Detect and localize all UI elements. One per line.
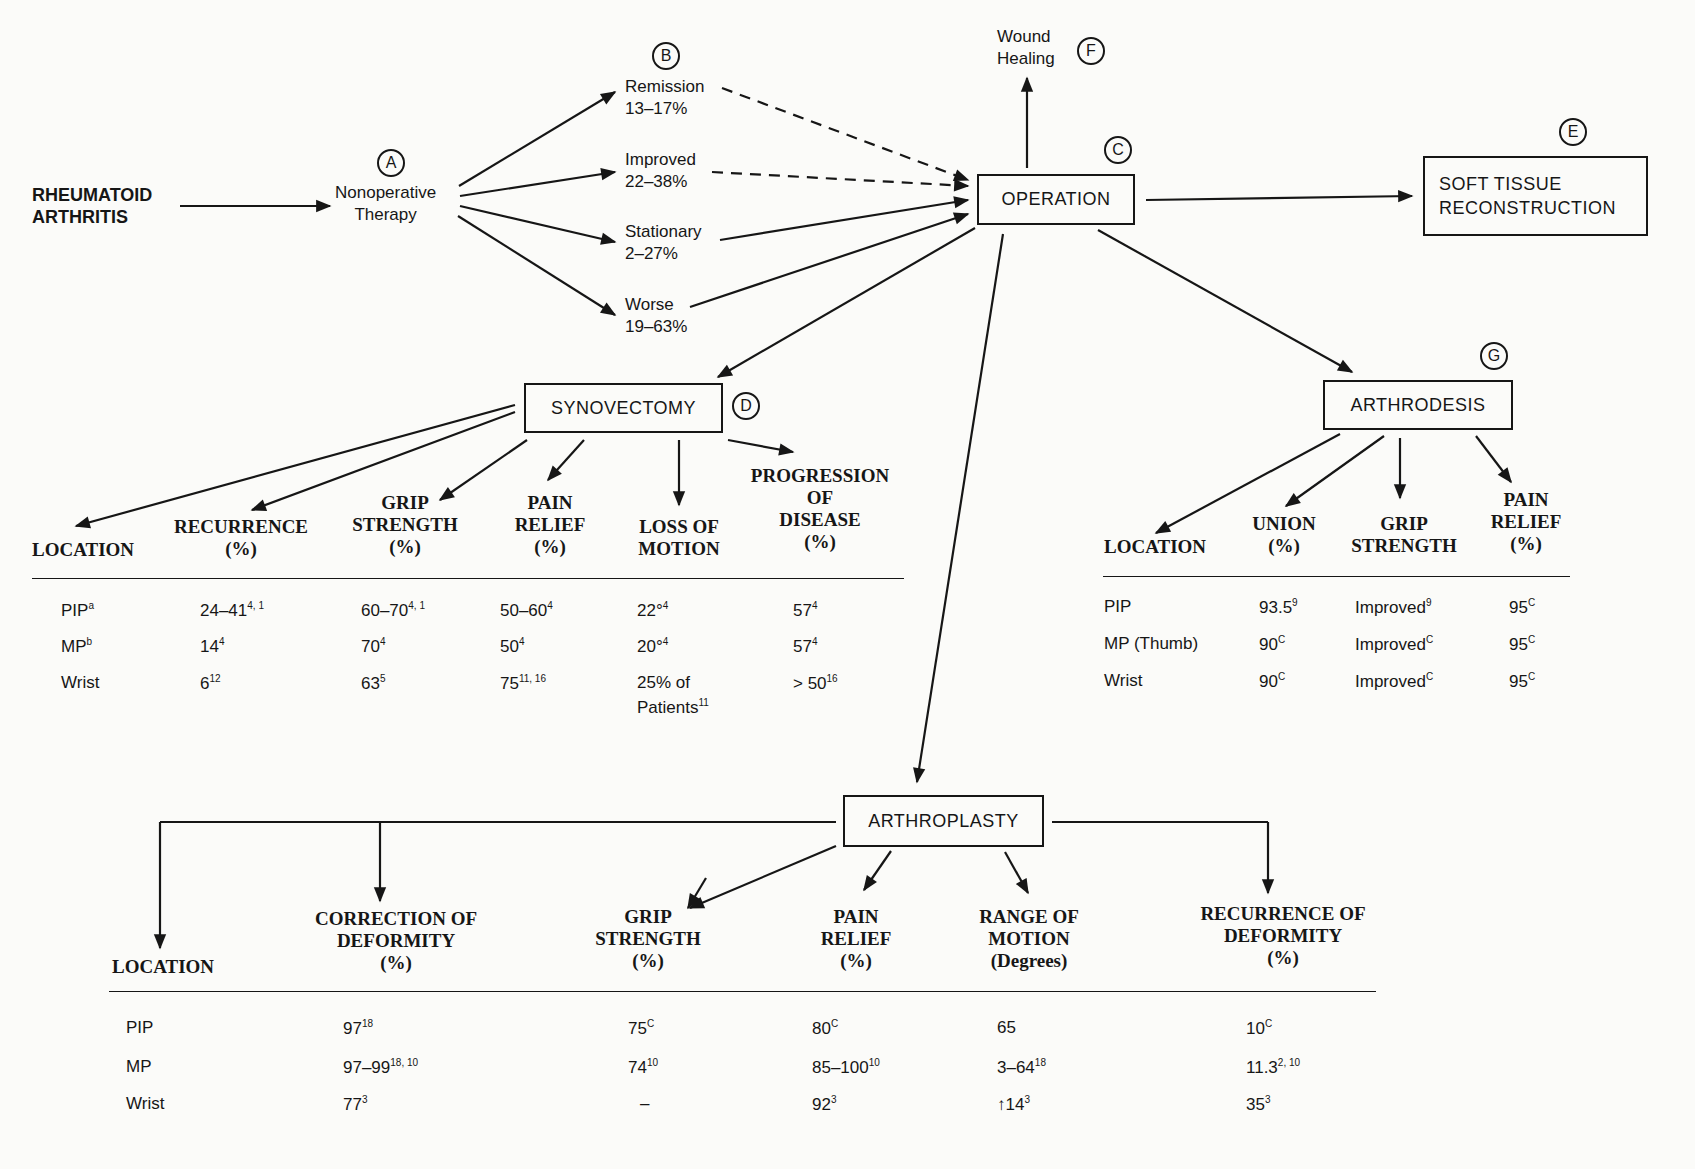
outcome-value: 19–63% <box>625 316 687 338</box>
arthrodesis-box: ARTHRODESIS <box>1323 380 1513 430</box>
header-line: PAIN <box>821 906 892 928</box>
table-cell: 3–6418 <box>997 1057 1046 1078</box>
table-cell: ImprovedC <box>1355 671 1433 692</box>
header-line: MOTION <box>638 538 719 560</box>
header-line: CORRECTION OF <box>315 908 477 930</box>
synovectomy-header-grip-strength: GRIP STRENGTH (%) <box>352 492 458 558</box>
header-line: RELIEF <box>515 514 586 536</box>
table-cell: 773 <box>343 1094 367 1115</box>
table-cell-location: Wrist <box>126 1094 164 1114</box>
arthroplasty-header-range-of-motion: RANGE OF MOTION (Degrees) <box>979 906 1079 972</box>
header-line: DEFORMITY <box>315 930 477 952</box>
synovectomy-header-recurrence: RECURRENCE (%) <box>174 516 308 560</box>
outcome-remission: Remission 13–17% <box>625 76 704 120</box>
root-condition-label: RHEUMATOID ARTHRITIS <box>32 184 152 228</box>
table-cell: Improved9 <box>1355 597 1431 618</box>
header-line: (%) <box>595 950 701 972</box>
soft-tissue-line-1: SOFT TISSUE <box>1439 172 1616 196</box>
table-cell: 75C <box>628 1018 654 1039</box>
header-line: STRENGTH <box>595 928 701 950</box>
arthroplasty-header-correction: CORRECTION OF DEFORMITY (%) <box>315 908 477 974</box>
table-cell-location: Wrist <box>61 673 99 693</box>
table-cell-location: MPb <box>61 636 92 657</box>
table-cell: 90C <box>1259 671 1285 692</box>
table-cell: 24–414, 1 <box>200 600 264 621</box>
header-line: LOSS OF <box>638 516 719 538</box>
header-line: (Degrees) <box>979 950 1079 972</box>
soft-tissue-line-2: RECONSTRUCTION <box>1439 196 1616 220</box>
outcome-label: Stationary <box>625 221 702 243</box>
nonoperative-line-2: Therapy <box>335 204 436 226</box>
soft-tissue-reconstruction-box: SOFT TISSUE RECONSTRUCTION <box>1423 156 1648 236</box>
header-line: (%) <box>821 950 892 972</box>
header-line: (%) <box>352 536 458 558</box>
arthroplasty-header-recurrence: RECURRENCE OF DEFORMITY (%) <box>1200 903 1365 969</box>
table-cell: 353 <box>1246 1094 1270 1115</box>
table-cell: ImprovedC <box>1355 634 1433 655</box>
table-cell: 7410 <box>628 1057 658 1078</box>
arthroplasty-header-pain-relief: PAIN RELIEF (%) <box>821 906 892 972</box>
header-line: (%) <box>315 952 477 974</box>
table-cell: 60–704, 1 <box>361 600 425 621</box>
synovectomy-box: SYNOVECTOMY <box>524 383 723 433</box>
table-cell: 11.32, 10 <box>1246 1057 1300 1078</box>
table-cell: 50–604 <box>500 600 553 621</box>
header-line: GRIP <box>1351 513 1457 535</box>
table-cell: Patients11 <box>637 697 709 718</box>
table-cell: 923 <box>812 1094 836 1115</box>
marker-f-icon: F <box>1077 37 1105 65</box>
arthrodesis-header-pain-relief: PAIN RELIEF (%) <box>1491 489 1562 555</box>
table-cell: 95C <box>1509 671 1535 692</box>
table-cell: > 5016 <box>793 673 838 694</box>
header-line: (%) <box>1491 533 1562 555</box>
header-line: DEFORMITY <box>1200 925 1365 947</box>
synovectomy-header-location: LOCATION <box>32 539 134 561</box>
marker-c-icon: C <box>1104 136 1132 164</box>
table-cell: ↑143 <box>997 1094 1030 1115</box>
marker-e-icon: E <box>1559 118 1587 146</box>
outcome-value: 13–17% <box>625 98 704 120</box>
synovectomy-header-progression: PROGRESSION OF DISEASE (%) <box>751 465 889 553</box>
table-cell: 93.59 <box>1259 597 1298 618</box>
marker-g-icon: G <box>1480 342 1508 370</box>
marker-a-icon: A <box>377 149 405 177</box>
table-cell: 95C <box>1509 634 1535 655</box>
outcome-value: 22–38% <box>625 171 696 193</box>
header-line: DISEASE <box>751 509 889 531</box>
table-cell: 574 <box>793 600 817 621</box>
table-cell: 90C <box>1259 634 1285 655</box>
table-cell: 635 <box>361 673 385 694</box>
table-cell-location: MP (Thumb) <box>1104 634 1198 654</box>
table-cell: 95C <box>1509 597 1535 618</box>
header-line: PAIN <box>1491 489 1562 511</box>
table-cell-location: PIP <box>126 1018 153 1038</box>
table-cell: 80C <box>812 1018 838 1039</box>
synovectomy-header-loss-of-motion: LOSS OF MOTION <box>638 516 719 560</box>
table-cell: 65 <box>997 1018 1016 1038</box>
table-cell-location: MP <box>126 1057 152 1077</box>
header-line: RECURRENCE <box>174 516 308 538</box>
table-cell: 25% of <box>637 673 690 693</box>
outcome-stationary: Stationary 2–27% <box>625 221 702 265</box>
header-line: STRENGTH <box>352 514 458 536</box>
arthrodesis-header-grip-strength: GRIP STRENGTH <box>1351 513 1457 557</box>
wound-healing-line-1: Wound <box>997 26 1055 48</box>
table-cell-location: Wrist <box>1104 671 1142 691</box>
outcome-label: Worse <box>625 294 687 316</box>
header-line: OF <box>751 487 889 509</box>
arthroplasty-header-grip-strength: GRIP STRENGTH (%) <box>595 906 701 972</box>
marker-b-icon: B <box>652 42 680 70</box>
header-line: (%) <box>174 538 308 560</box>
header-line: UNION <box>1252 513 1315 535</box>
table-cell: 20°4 <box>637 636 668 657</box>
header-line: RELIEF <box>821 928 892 950</box>
nonoperative-line-1: Nonoperative <box>335 182 436 204</box>
arthroplasty-header-location: LOCATION <box>112 956 214 978</box>
table-cell: 704 <box>361 636 385 657</box>
header-line: RANGE OF <box>979 906 1079 928</box>
outcome-value: 2–27% <box>625 243 702 265</box>
arthrodesis-header-union: UNION (%) <box>1252 513 1315 557</box>
wound-healing-line-2: Healing <box>997 48 1055 70</box>
table-cell: 7511, 16 <box>500 673 546 694</box>
root-line-1: RHEUMATOID <box>32 184 152 206</box>
